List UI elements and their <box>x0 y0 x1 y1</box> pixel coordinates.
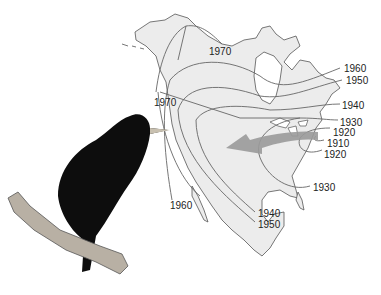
isochrone-label-1970-north: 1970 <box>209 47 231 57</box>
isochrone-label-1940-east: 1940 <box>342 101 364 111</box>
aleutian-islands <box>122 44 144 49</box>
isochrone-label-1930-south: 1930 <box>313 183 335 193</box>
isochrone-label-1950-east: 1950 <box>346 76 368 86</box>
isochrone-label-1940-south: 1940 <box>258 209 280 219</box>
isochrone-label-1970-west: 1970 <box>154 98 176 108</box>
isochrone-label-1920-south: 1920 <box>324 150 346 160</box>
isochrone-label-1920-north: 1920 <box>333 128 355 138</box>
florida <box>296 192 304 210</box>
isochrone-label-1910: 1910 <box>327 139 349 149</box>
bird-beak <box>150 128 170 134</box>
starling-bird <box>8 114 170 274</box>
isochrone-label-1950-south: 1950 <box>258 220 280 230</box>
isochrone-label-1960-east: 1960 <box>344 64 366 74</box>
isochrone-label-1960-west: 1960 <box>170 201 192 211</box>
range-map <box>0 0 381 295</box>
